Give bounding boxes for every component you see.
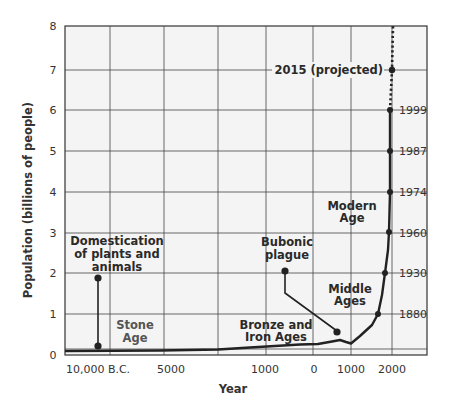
- svg-text:1930: 1930: [399, 267, 427, 280]
- svg-text:Ages: Ages: [334, 294, 366, 308]
- svg-text:5000: 5000: [157, 363, 185, 376]
- svg-text:6: 6: [50, 104, 57, 117]
- svg-text:Iron Ages: Iron Ages: [245, 330, 307, 344]
- svg-text:1987: 1987: [399, 145, 427, 158]
- svg-text:1880: 1880: [399, 308, 427, 321]
- svg-text:Bubonic: Bubonic: [261, 235, 313, 249]
- svg-text:plague: plague: [265, 248, 309, 262]
- y-tick-labels: 8 7 6 5 4 3 2 1 0: [50, 20, 57, 362]
- population-chart: 8 7 6 5 4 3 2 1 0 10,000 B.C. 5000 1000 …: [0, 0, 453, 414]
- svg-text:Age: Age: [340, 211, 365, 225]
- svg-text:Domestication: Domestication: [70, 234, 164, 248]
- svg-text:8: 8: [50, 20, 57, 33]
- svg-text:Stone: Stone: [116, 318, 154, 332]
- svg-text:1: 1: [50, 308, 57, 321]
- projected-label: 2015 (projected): [275, 63, 383, 77]
- svg-text:4: 4: [50, 186, 57, 199]
- svg-text:1974: 1974: [399, 186, 427, 199]
- middle-ages-label: Middle Ages: [328, 282, 372, 308]
- svg-text:3: 3: [50, 227, 57, 240]
- y-axis-label: Population (billions of people): [21, 102, 35, 298]
- svg-text:10,000 B.C.: 10,000 B.C.: [66, 363, 130, 376]
- svg-text:2000: 2000: [378, 363, 406, 376]
- svg-text:1999: 1999: [399, 104, 427, 117]
- svg-text:5: 5: [50, 145, 57, 158]
- svg-text:animals: animals: [92, 260, 143, 274]
- bronze-iron-label: Bronze and Iron Ages: [239, 318, 312, 344]
- svg-text:1960: 1960: [399, 227, 427, 240]
- svg-text:0: 0: [50, 349, 57, 362]
- svg-text:of plants and: of plants and: [74, 247, 160, 261]
- svg-text:0: 0: [311, 363, 318, 376]
- x-tick-labels: 10,000 B.C. 5000 1000 0 1000 2000: [66, 363, 406, 376]
- svg-text:7: 7: [50, 64, 57, 77]
- svg-text:1000: 1000: [337, 363, 365, 376]
- x-axis-label: Year: [218, 382, 248, 396]
- svg-text:Age: Age: [123, 331, 148, 345]
- svg-text:2: 2: [50, 267, 57, 280]
- svg-text:1000: 1000: [251, 363, 279, 376]
- plague-label: Bubonic plague: [261, 235, 313, 262]
